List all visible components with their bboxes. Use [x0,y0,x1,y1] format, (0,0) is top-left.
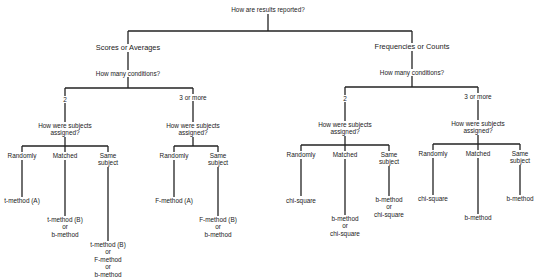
result-scores-three-same: F-method (B) or b-method [198,216,238,238]
scores-two-randomly: Randomly [7,152,38,159]
scores-two-assign-question: How were subjects assigned? [37,122,93,137]
result-scores-two-same: t-method (B) or F-method or b-method [89,241,127,278]
scores-three-randomly: Randomly [159,152,190,159]
result-frequencies-two-matched: b-method or chi-square [329,215,361,237]
scores-three-assign-question: How were subjects assigned? [165,122,221,137]
frequencies-three-matched: Matched [465,150,492,157]
result-b-method-three-same: b-method [506,195,534,202]
frequencies-three-or-more: 3 or more [463,93,492,100]
result-chi-square-three-random: chi-square [417,195,449,202]
result-t-method-a: t-method (A) [3,197,41,204]
frequencies-two-same-subject: Same subject [378,151,400,166]
scores-or-averages-node: Scores or Averages [95,44,161,52]
frequencies-two-assign-question: How were subjects assigned? [317,121,373,136]
root-question: How are results reported? [230,6,306,13]
result-b-method-three-matched: b-method [464,214,493,221]
result-scores-two-matched: t-method (B) or b-method [46,216,84,238]
scores-two-same-subject: Same subject [97,152,119,167]
scores-three-same-subject: Same subject [207,152,229,167]
scores-two-matched: Matched [52,152,79,159]
frequencies-three-same-subject: Same subject [509,150,531,165]
result-frequencies-two-same: b-method or chi-square [373,196,405,218]
frequencies-two-conditions: 2 [342,95,348,102]
result-f-method-a: F-method (A) [154,197,194,204]
frequencies-three-randomly: Randomly [418,150,449,157]
scores-three-or-more: 3 or more [178,94,207,101]
frequencies-two-randomly: Randomly [286,151,317,158]
frequencies-three-assign-question: How were subjects assigned? [450,120,506,135]
scores-conditions-question: How many conditions? [95,70,161,77]
frequencies-conditions-question: How many conditions? [379,69,445,76]
frequencies-or-counts-node: Frequencies or Counts [374,43,451,51]
frequencies-two-matched: Matched [332,151,359,158]
result-chi-square-random: chi-square [285,197,317,204]
scores-two-conditions: 2 [62,96,68,103]
